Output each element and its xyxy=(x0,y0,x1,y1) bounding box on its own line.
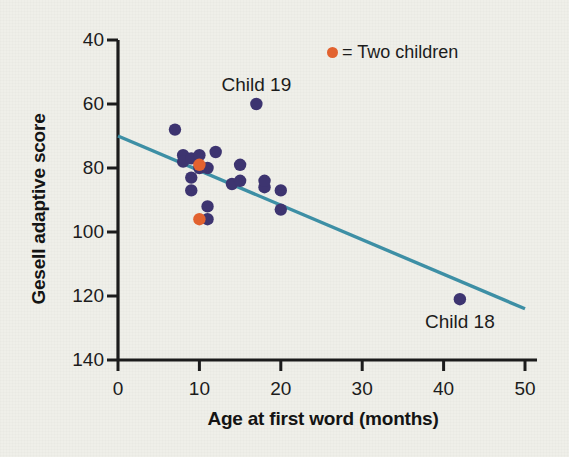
data-point xyxy=(275,203,287,215)
data-point xyxy=(234,175,246,187)
data-point xyxy=(185,184,197,196)
y-tick-label: 140 xyxy=(40,349,104,371)
y-axis-title: Gesell adaptive score xyxy=(28,84,50,334)
x-tick-label: 50 xyxy=(514,378,535,400)
legend: = Two children xyxy=(327,42,458,63)
data-point xyxy=(185,171,197,183)
data-point xyxy=(193,213,205,225)
y-tick-label: 40 xyxy=(40,29,104,51)
annotation-child-19: Child 19 xyxy=(222,74,292,96)
x-tick-label: 10 xyxy=(189,378,210,400)
data-point xyxy=(201,200,213,212)
scatter-plot-figure: 140120100806040 01020304050 Gesell adapt… xyxy=(0,0,569,457)
annotation-child-18: Child 18 xyxy=(425,311,495,333)
x-tick-label: 0 xyxy=(113,378,124,400)
data-point xyxy=(275,184,287,196)
legend-label: = Two children xyxy=(342,42,458,63)
data-point xyxy=(258,175,270,187)
data-point xyxy=(209,146,221,158)
x-tick-label: 40 xyxy=(433,378,454,400)
data-point xyxy=(234,159,246,171)
x-axis-title: Age at first word (months) xyxy=(118,408,528,430)
data-point xyxy=(454,293,466,305)
data-point xyxy=(193,159,205,171)
x-axis-ticks xyxy=(118,360,525,371)
data-point xyxy=(250,98,262,110)
x-tick-label: 30 xyxy=(352,378,373,400)
x-tick-label: 20 xyxy=(270,378,291,400)
data-point xyxy=(169,123,181,135)
data-points xyxy=(169,98,466,306)
y-axis-ticks xyxy=(107,40,118,360)
legend-marker-icon xyxy=(327,47,338,58)
